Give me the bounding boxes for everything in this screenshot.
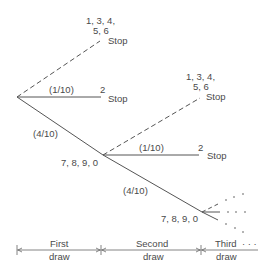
continuation-dots xyxy=(225,193,246,233)
stop-label: Stop xyxy=(207,150,227,161)
stop-label: Stop xyxy=(108,35,128,46)
stage-second-label: Second xyxy=(136,238,168,249)
probability-label: (4/10) xyxy=(33,128,58,139)
branch-third-down xyxy=(202,212,218,220)
probability-label: (1/10) xyxy=(139,142,164,153)
stage-first-label: draw xyxy=(49,251,70,262)
stage-third-label: Third xyxy=(215,238,237,249)
branch-second-continue xyxy=(103,155,202,212)
outcomes-label: 7, 8, 9, 0 xyxy=(61,157,98,168)
stage-first-label: First xyxy=(50,238,69,249)
stop-label: Stop xyxy=(108,93,128,104)
probability-label: (4/10) xyxy=(123,185,148,196)
stage-continuation: · · · xyxy=(242,238,257,249)
branch-root-continue xyxy=(17,97,103,155)
stop-label: Stop xyxy=(206,91,226,102)
probability-tree-diagram: 1, 3, 4, 5, 6 Stop (1/10) 2 Stop (4/10) … xyxy=(0,0,270,272)
stage-second-label: draw xyxy=(143,251,164,262)
stage-third-label: draw xyxy=(216,251,237,262)
outcome-label: 2 xyxy=(198,142,203,153)
probability-label: (1/10) xyxy=(49,84,74,95)
outcomes-label: 5, 6 xyxy=(93,25,109,36)
outcomes-label: 7, 8, 9, 0 xyxy=(161,213,198,224)
outcome-label: 2 xyxy=(100,84,105,95)
branch-third-up xyxy=(202,204,218,212)
